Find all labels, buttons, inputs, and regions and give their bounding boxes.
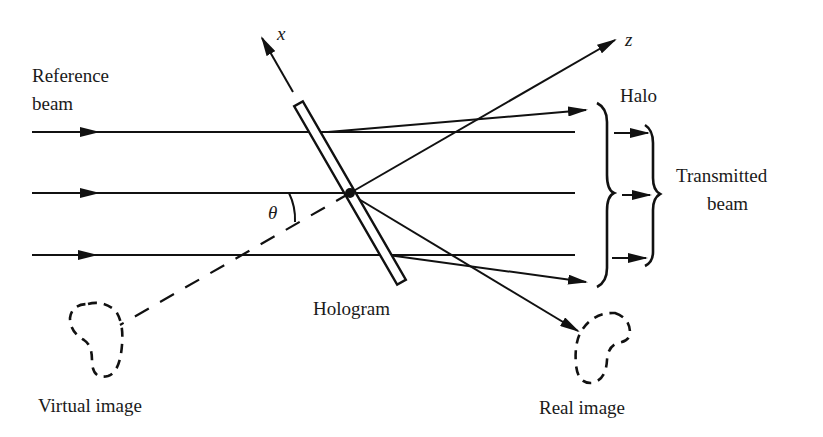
transmitted-beam-label: Transmitted bbox=[676, 165, 768, 186]
arrow-head-icon bbox=[80, 127, 100, 137]
reference-beam-label-2: beam bbox=[32, 93, 73, 114]
z-axis-label: z bbox=[624, 29, 633, 50]
arrow-head-icon bbox=[78, 250, 98, 260]
x-axis bbox=[262, 38, 293, 92]
halo-brace bbox=[597, 103, 614, 287]
halo-label: Halo bbox=[620, 85, 657, 106]
real-image-shape bbox=[576, 313, 630, 383]
z-axis bbox=[120, 40, 615, 325]
hologram-diagram: Reference beam x z θ Halo Transmitted be… bbox=[0, 0, 823, 437]
angle-theta-arc bbox=[289, 193, 295, 222]
plate-center-dot bbox=[345, 188, 355, 198]
x-axis-label: x bbox=[276, 23, 286, 44]
reference-beams bbox=[32, 127, 575, 260]
virtual-image-shape bbox=[70, 303, 122, 377]
theta-label: θ bbox=[268, 202, 277, 223]
real-image-label: Real image bbox=[539, 397, 625, 418]
virtual-image-label: Virtual image bbox=[38, 395, 142, 416]
reference-beam-label: Reference bbox=[32, 65, 109, 86]
transmitted-beam-arrows bbox=[612, 133, 650, 258]
arrow-head-icon bbox=[80, 188, 100, 198]
halo-rays bbox=[328, 110, 586, 282]
hologram-label: Hologram bbox=[313, 298, 390, 319]
transmitted-beam-label-2: beam bbox=[707, 193, 748, 214]
